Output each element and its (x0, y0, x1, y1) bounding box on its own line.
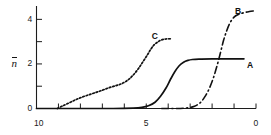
curve-c-path (57, 39, 170, 109)
y-tick-label-2: 2 (28, 59, 33, 68)
curve-label-a: A (247, 61, 253, 70)
curve-b-path (162, 11, 254, 109)
y-axis-title: n (12, 57, 18, 69)
y-axis-ticks (37, 19, 43, 86)
y-tick-label-4: 4 (28, 15, 33, 24)
y-tick-label-0: 0 (28, 104, 33, 113)
curve-label-c: C (152, 32, 158, 41)
x-tick-label-5: 5 (144, 119, 149, 128)
curves-group (37, 11, 254, 109)
chart-figure: n 4 2 0 10 5 0 A B C (0, 0, 271, 135)
chart-plot-area (0, 0, 271, 135)
x-tick-label-0: 0 (254, 119, 259, 128)
x-tick-label-10: 10 (34, 119, 43, 128)
y-axis-title-text: n (12, 57, 18, 69)
curve-label-b: B (235, 7, 241, 16)
